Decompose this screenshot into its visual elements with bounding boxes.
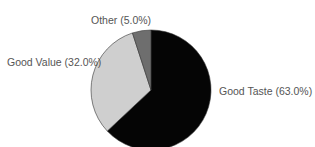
label-good-taste: Good Taste (63.0%) (219, 85, 312, 97)
pie-slices (91, 30, 211, 147)
pie-chart (0, 0, 315, 147)
label-other: Other (5.0%) (91, 14, 151, 26)
label-good-value: Good Value (32.0%) (7, 56, 101, 68)
